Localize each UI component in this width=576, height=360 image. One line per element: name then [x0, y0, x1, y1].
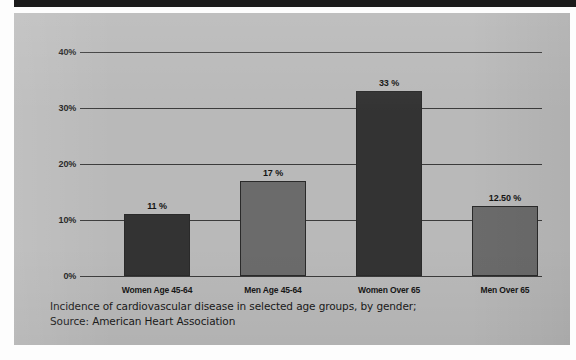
chart-panel: 40% 30% 20% 10% 0% 11 % Women Age 45-64 … [14, 13, 570, 345]
bar-value-men-45-64: 17 % [220, 169, 326, 178]
caption-line-1: Incidence of cardiovascular disease in s… [50, 299, 550, 314]
bar-group-women-over-65[interactable]: 33 % Women Over 65 [356, 31, 422, 276]
gridline-axis-0 [80, 276, 542, 277]
caption-line-2: Source: American Heart Association [50, 314, 550, 329]
ytick-label-30: 30% [36, 104, 76, 113]
bar-series: 11 % Women Age 45-64 17 % Men Age 45-64 … [80, 31, 542, 276]
bar-women-45-64[interactable] [124, 214, 190, 276]
bar-women-over-65[interactable] [356, 91, 422, 276]
bar-value-women-45-64: 11 % [104, 202, 210, 211]
category-label-men-45-64: Men Age 45-64 [206, 286, 340, 295]
figure-caption: Incidence of cardiovascular disease in s… [50, 299, 550, 328]
bar-value-men-over-65: 12.50 % [452, 194, 558, 203]
bar-value-women-over-65: 33 % [336, 79, 442, 88]
ytick-label-0: 0% [36, 272, 76, 281]
bar-group-women-45-64[interactable]: 11 % Women Age 45-64 [124, 31, 190, 276]
ytick-label-10: 10% [36, 216, 76, 225]
ytick-label-40: 40% [36, 48, 76, 57]
bar-group-men-45-64[interactable]: 17 % Men Age 45-64 [240, 31, 306, 276]
bar-men-45-64[interactable] [240, 181, 306, 276]
figure-page: 40% 30% 20% 10% 0% 11 % Women Age 45-64 … [0, 0, 576, 360]
ytick-label-20: 20% [36, 160, 76, 169]
top-rule-divider [14, 0, 576, 7]
category-label-women-45-64: Women Age 45-64 [90, 286, 224, 295]
plot-area: 40% 30% 20% 10% 0% 11 % Women Age 45-64 … [50, 31, 542, 289]
bar-group-men-over-65[interactable]: 12.50 % Men Over 65 [472, 31, 538, 276]
bar-men-over-65[interactable] [472, 206, 538, 276]
category-label-men-over-65: Men Over 65 [438, 286, 572, 295]
category-label-women-over-65: Women Over 65 [322, 286, 456, 295]
